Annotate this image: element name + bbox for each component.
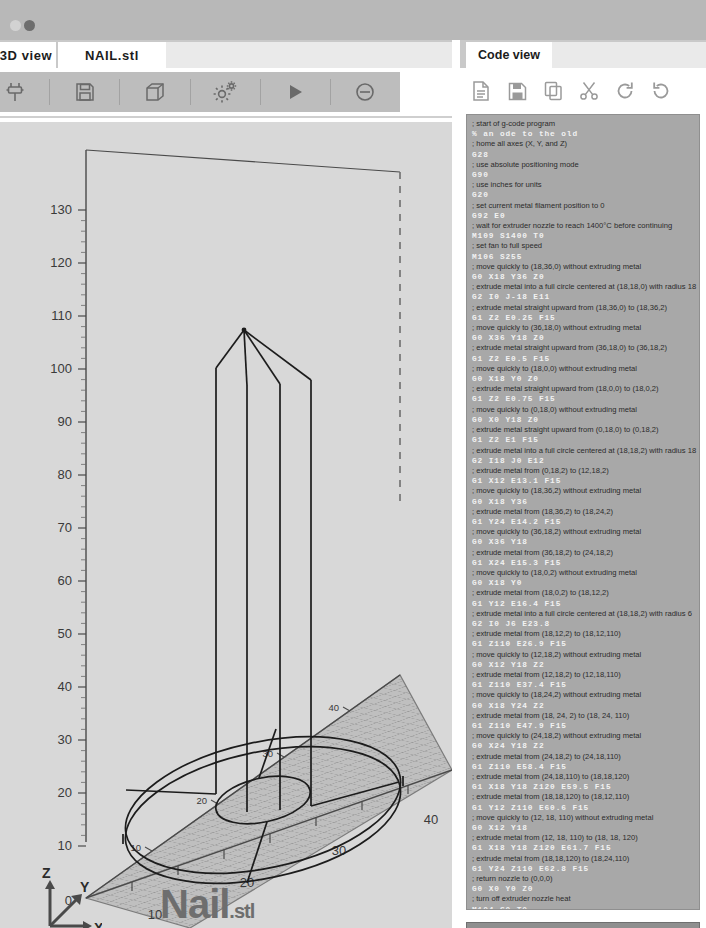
svg-text:100: 100 bbox=[50, 361, 72, 376]
gcode-comment-line: ; extrude metal from (36,18,2) to (24,18… bbox=[472, 548, 694, 558]
right-tabstrip-filler bbox=[552, 42, 706, 68]
gcode-command-line: M106 S255 bbox=[472, 252, 694, 262]
gcode-command-line: G92 E0 bbox=[472, 211, 694, 221]
gcode-editor[interactable]: ; start of g-code program% an ode to the… bbox=[466, 114, 700, 910]
gcode-comment-line: ; move quickly to (36,18,2) without extr… bbox=[472, 527, 694, 537]
gcode-command-line: G0 X18 Y0 Z0 bbox=[472, 374, 694, 384]
gcode-comment-line: ; extrude metal from (18, 24, 2) to (18,… bbox=[472, 711, 694, 721]
tab-code-view-label: Code view bbox=[478, 48, 540, 62]
model-generated-button[interactable]: Model Generated! bbox=[466, 922, 700, 928]
gcode-comment-line: ; extrude metal from (18,36,2) to (18,24… bbox=[472, 507, 694, 517]
new-file-icon[interactable] bbox=[466, 76, 496, 106]
stop-disable-icon[interactable] bbox=[331, 72, 400, 112]
svg-text:Z: Z bbox=[42, 866, 51, 881]
gcode-comment-line: ; start of g-code program bbox=[472, 119, 694, 129]
three-d-view-panel: 3D view NAIL.stl bbox=[0, 40, 452, 928]
svg-text:40: 40 bbox=[58, 679, 72, 694]
gcode-comment-line: ; extrude metal straight upward from (0,… bbox=[472, 425, 694, 435]
gcode-comment-line: ; turn off extruder nozzle heat bbox=[472, 894, 694, 904]
gcode-command-line: G1 Z110 E37.4 F15 bbox=[472, 680, 694, 690]
gcode-comment-line: ; extrude metal from (18,18,120) to (18,… bbox=[472, 854, 694, 864]
gcode-comment-line: ; wait for extruder nozzle to reach 1400… bbox=[472, 221, 694, 231]
svg-text:130: 130 bbox=[50, 202, 72, 217]
gcode-comment-line: ; move quickly to (18,36,2) without extr… bbox=[472, 486, 694, 496]
code-view-panel: Code view bbox=[460, 40, 706, 928]
tab-nail-stl-label: NAIL.stl bbox=[85, 48, 139, 63]
svg-text:X: X bbox=[94, 920, 102, 928]
gcode-comment-line: ; extrude metal into a full circle cente… bbox=[472, 282, 694, 292]
app-window: 3D view NAIL.stl bbox=[0, 0, 706, 928]
svg-text:80: 80 bbox=[58, 467, 72, 482]
undo-icon[interactable] bbox=[646, 76, 676, 106]
gcode-command-line: G1 Z2 E1 F15 bbox=[472, 435, 694, 445]
window-dot-active[interactable] bbox=[24, 20, 35, 31]
gcode-comment-line: ; extrude metal from (18,12,2) to (18,12… bbox=[472, 629, 694, 639]
gcode-comment-line: ; extrude metal into a full circle cente… bbox=[472, 609, 694, 619]
gcode-command-line: G0 X36 Y18 bbox=[472, 537, 694, 547]
model-title-ext: .stl bbox=[229, 900, 254, 922]
svg-text:20: 20 bbox=[196, 795, 207, 806]
redo-icon[interactable] bbox=[610, 76, 640, 106]
gcode-command-line: % an ode to the old bbox=[472, 129, 694, 139]
svg-text:30: 30 bbox=[58, 732, 72, 747]
gcode-comment-line: ; move quickly to (18,0,2) without extru… bbox=[472, 568, 694, 578]
gcode-command-line: M109 S1400 T0 bbox=[472, 231, 694, 241]
left-tabstrip: 3D view NAIL.stl bbox=[0, 40, 452, 68]
gcode-comment-line: ; extrude metal straight upward from (18… bbox=[472, 303, 694, 313]
copy-icon[interactable] bbox=[538, 76, 568, 106]
gcode-comment-line: ; extrude metal from (24,18,110) to (18,… bbox=[472, 772, 694, 782]
gcode-comment-line: ; extrude metal from (24,18,2) to (24,18… bbox=[472, 752, 694, 762]
gcode-command-line: G1 Z2 E0.75 F15 bbox=[472, 394, 694, 404]
gcode-comment-line: ; extrude metal from (18,18,120) to (18,… bbox=[472, 792, 694, 802]
gcode-comment-line: ; extrude metal straight upward from (18… bbox=[472, 384, 694, 394]
tab-nail-stl[interactable]: NAIL.stl bbox=[58, 42, 166, 68]
gcode-comment-line: ; move quickly to (0,18,0) without extru… bbox=[472, 405, 694, 415]
gcode-command-line: G0 X18 Y24 Z2 bbox=[472, 701, 694, 711]
svg-text:70: 70 bbox=[58, 520, 72, 535]
gcode-command-line: G1 X18 Y18 Z120 E59.5 F15 bbox=[472, 782, 694, 792]
gcode-command-line: G20 bbox=[472, 190, 694, 200]
gcode-command-line: G28 bbox=[472, 150, 694, 160]
cube-icon[interactable] bbox=[120, 72, 189, 112]
save-floppy-icon[interactable] bbox=[502, 76, 532, 106]
toolbar-underline bbox=[0, 116, 452, 118]
window-dot-inactive[interactable] bbox=[10, 20, 21, 31]
gcode-command-line: G0 X0 Y18 Z0 bbox=[472, 415, 694, 425]
gcode-command-line: G1 Y12 Z110 E60.6 F15 bbox=[472, 803, 694, 813]
gcode-command-line: G90 bbox=[472, 170, 694, 180]
svg-text:10: 10 bbox=[58, 838, 72, 853]
gcode-command-line: G0 X36 Y18 Z0 bbox=[472, 333, 694, 343]
gcode-command-line: G1 Z110 E26.9 F15 bbox=[472, 639, 694, 649]
gcode-comment-line: ; move quickly to (36,18,0) without extr… bbox=[472, 323, 694, 333]
svg-text:60: 60 bbox=[58, 573, 72, 588]
play-icon[interactable] bbox=[261, 72, 330, 112]
gcode-command-line: G0 X12 Y18 bbox=[472, 823, 694, 833]
gcode-command-line: G0 X24 Y18 Z2 bbox=[472, 741, 694, 751]
tab-code-view[interactable]: Code view bbox=[466, 42, 552, 68]
three-d-viewport[interactable]: 130 120 110 100 90 80 70 60 50 40 30 20 … bbox=[0, 122, 452, 928]
model-title: Nail.stl bbox=[160, 882, 254, 927]
gears-settings-icon[interactable] bbox=[191, 72, 260, 112]
gcode-command-line: G1 Z110 E47.9 F15 bbox=[472, 721, 694, 731]
gcode-comment-line: ; extrude metal from (0,18,2) to (12,18,… bbox=[472, 466, 694, 476]
gcode-comment-line: ; use inches for units bbox=[472, 180, 694, 190]
gcode-command-line: G2 I18 J0 E12 bbox=[472, 456, 694, 466]
tab-3d-view-label: 3D view bbox=[0, 48, 52, 63]
gcode-command-line: G1 Y24 Z110 E62.8 F15 bbox=[472, 864, 694, 874]
connect-plug-icon[interactable] bbox=[0, 72, 49, 112]
right-tabstrip: Code view bbox=[460, 40, 706, 68]
gcode-command-line: G1 Z2 E0.25 F15 bbox=[472, 313, 694, 323]
gcode-comment-line: ; set fan to full speed bbox=[472, 241, 694, 251]
gcode-command-line: G2 I0 J6 E23.8 bbox=[472, 619, 694, 629]
gcode-command-line: G0 X18 Y0 bbox=[472, 578, 694, 588]
tab-3d-view[interactable]: 3D view bbox=[0, 42, 56, 68]
gcode-comment-line: ; extrude metal from (12, 18, 110) to (1… bbox=[472, 833, 694, 843]
gcode-comment-line: ; extrude metal into a full circle cente… bbox=[472, 446, 694, 456]
gcode-comment-line: ; move quickly to (18,24,2) without extr… bbox=[472, 690, 694, 700]
svg-text:90: 90 bbox=[58, 414, 72, 429]
gcode-comment-line: ; move quickly to (12, 18, 110) without … bbox=[472, 813, 694, 823]
save-floppy-icon[interactable] bbox=[50, 72, 119, 112]
scissors-cut-icon[interactable] bbox=[574, 76, 604, 106]
gcode-command-line: G0 X18 Y36 bbox=[472, 497, 694, 507]
model-title-name: Nail bbox=[160, 882, 229, 926]
